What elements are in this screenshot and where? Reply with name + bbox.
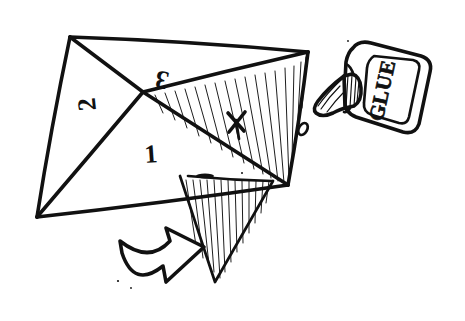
fold-arrow-shape xyxy=(120,228,204,282)
label-panel-1: 1 xyxy=(143,139,158,169)
diagram-canvas: 2 3 1 GLUE xyxy=(0,0,465,321)
flap-hinge-shadow xyxy=(196,174,214,179)
glue-bottle: GLUE xyxy=(296,42,430,136)
paper-folding-illustration: 2 3 1 GLUE xyxy=(0,0,465,321)
fold-arrow xyxy=(120,228,204,282)
